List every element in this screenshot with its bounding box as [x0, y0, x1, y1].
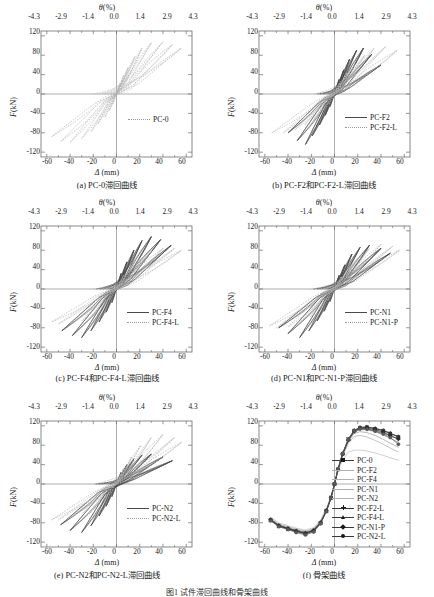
tick-label: 60: [178, 352, 185, 361]
tick-label: 20: [133, 352, 140, 361]
legend-item: PC-N1: [345, 308, 398, 318]
legend-label: PC-F2: [370, 113, 390, 123]
tick-label: 60: [396, 352, 403, 361]
tick-label: 0: [112, 352, 116, 361]
tick-label: 60: [396, 157, 403, 166]
legend-label: PC-N1-P: [357, 523, 385, 533]
legend-item: PC-F4: [332, 475, 385, 485]
legend-swatch-line: [345, 322, 367, 323]
panel-e-bottom-ticks: -60 -40 -20 0 20 40 60: [0, 547, 214, 557]
tick-label: 40: [155, 352, 162, 361]
legend-label: PC-N1: [370, 308, 391, 318]
legend-label: PC-F4: [357, 475, 377, 485]
tick-label: 40: [373, 547, 380, 556]
tick-label: 0: [112, 157, 116, 166]
tick-label: -20: [305, 352, 315, 361]
legend-item: PC-F2: [345, 113, 397, 123]
panel-e-legend: PC-N2 PC-N2-L: [127, 504, 180, 523]
panel-c-legend: PC-F4 PC-F4-L: [127, 308, 179, 327]
legend-label: PC-N2: [152, 504, 173, 514]
tick-label: -60: [42, 547, 52, 556]
panel-b-bottom-axis-title: Δ (mm): [214, 168, 434, 177]
legend-item: PC-F2-L: [345, 123, 397, 133]
panel-f-bottom-ticks: -60 -40 -20 0 20 40 60: [214, 547, 434, 557]
panel-d-caption: (d) PC-N1和PC-N1-P滞回曲线: [214, 371, 434, 383]
legend-label: PC-F4: [152, 308, 172, 318]
legend-swatch-line: [127, 312, 149, 313]
legend-item: PC-0: [128, 115, 169, 125]
panel-e-caption: (e) PC-N2和PC-N2-L滞回曲线: [0, 568, 214, 580]
panel-b-bottom-ticks: -60 -40 -20 0 20 40 60: [214, 157, 434, 167]
legend-swatch-marker: [332, 524, 354, 531]
panel-d: θ(%) -4.3 -2.9 -1.4 0.0 1.4 2.9 4.3 F(kN…: [214, 195, 434, 385]
tick-label: -60: [260, 157, 270, 166]
panel-f-caption: (f) 骨架曲线: [214, 568, 434, 580]
panel-f-legend: PC-0 PC-F2 PC-F4 PC-N1 PC-N2 PC-F2-L PC-…: [332, 456, 385, 542]
legend-swatch-marker: [332, 514, 354, 521]
tick-label: 40: [373, 352, 380, 361]
panel-b-caption: (b) PC-F2和PC-F2-L滞回曲线: [214, 178, 434, 190]
tick-label: -60: [42, 157, 52, 166]
tick-label: 20: [351, 547, 358, 556]
figure-footer-caption: 图1 试件滞回曲线和骨架曲线: [0, 586, 434, 597]
tick-label: -40: [64, 547, 74, 556]
legend-swatch-line: [127, 508, 149, 509]
legend-label: PC-N2-L: [357, 532, 385, 542]
tick-label: -60: [260, 352, 270, 361]
figure-panel-grid: θ(%) -4.3 -2.9 -1.4 0.0 1.4 2.9 4.3 F(kN…: [0, 0, 434, 597]
tick-label: 0: [330, 157, 334, 166]
legend-item: PC-F2-L: [332, 504, 385, 514]
tick-label: -60: [260, 547, 270, 556]
legend-item: PC-F4-L: [127, 318, 179, 328]
legend-swatch-line: [345, 117, 367, 118]
panel-c-caption: (c) PC-F4和PC-F4-L滞回曲线: [0, 371, 214, 383]
legend-label: PC-N2: [357, 494, 378, 504]
tick-label: 0: [330, 547, 334, 556]
legend-item: PC-N2: [332, 494, 385, 504]
legend-item: PC-N1-P: [345, 318, 398, 328]
legend-swatch-marker: [332, 505, 354, 512]
tick-label: 0: [330, 352, 334, 361]
panel-a: θ(%) -4.3 -2.9 -1.4 0.0 1.4 2.9 4.3 F(kN…: [0, 0, 214, 195]
panel-f: θ(%) -4.3 -2.9 -1.4 0.0 1.4 2.9 4.3 F(kN…: [214, 385, 434, 597]
panel-c: θ(%) -4.3 -2.9 -1.4 0.0 1.4 2.9 4.3 F(kN…: [0, 195, 214, 385]
tick-label: -40: [64, 157, 74, 166]
legend-swatch-line: [345, 127, 367, 128]
legend-label: PC-0: [357, 456, 373, 466]
legend-swatch-marker: [332, 457, 354, 464]
panel-b: θ(%) -4.3 -2.9 -1.4 0.0 1.4 2.9 4.3 F(kN…: [214, 0, 434, 195]
legend-label: PC-N1-P: [370, 318, 398, 328]
legend-label: PC-F2-L: [370, 123, 397, 133]
panel-b-legend: PC-F2 PC-F2-L: [345, 113, 397, 132]
tick-label: 60: [178, 547, 185, 556]
panel-a-bottom-axis-title: Δ (mm): [0, 168, 214, 177]
legend-swatch-line: [332, 489, 354, 490]
legend-item: PC-N2-L: [332, 532, 385, 542]
panel-a-legend: PC-0: [128, 115, 169, 125]
legend-label: PC-0: [153, 115, 169, 125]
legend-swatch-line: [127, 322, 149, 323]
panel-a-caption: (a) PC-0滞回曲线: [0, 178, 214, 190]
tick-label: 40: [155, 547, 162, 556]
tick-label: 20: [351, 352, 358, 361]
tick-label: -60: [42, 352, 52, 361]
legend-swatch-line: [332, 470, 354, 471]
tick-label: -40: [64, 352, 74, 361]
tick-label: -20: [305, 157, 315, 166]
legend-swatch-line: [332, 498, 354, 499]
legend-swatch-marker: [332, 533, 354, 540]
tick-label: 40: [155, 157, 162, 166]
legend-item: PC-N2-L: [127, 514, 180, 524]
tick-label: -20: [87, 547, 97, 556]
legend-swatch-line: [345, 312, 367, 313]
tick-label: -40: [282, 547, 292, 556]
tick-label: -40: [282, 157, 292, 166]
legend-item: PC-F4: [127, 308, 179, 318]
tick-label: 20: [351, 157, 358, 166]
tick-label: -40: [282, 352, 292, 361]
legend-label: PC-F4-L: [357, 513, 384, 523]
legend-item: PC-F2: [332, 466, 385, 476]
tick-label: 0: [112, 547, 116, 556]
legend-label: PC-N1: [357, 485, 378, 495]
tick-label: 20: [133, 157, 140, 166]
